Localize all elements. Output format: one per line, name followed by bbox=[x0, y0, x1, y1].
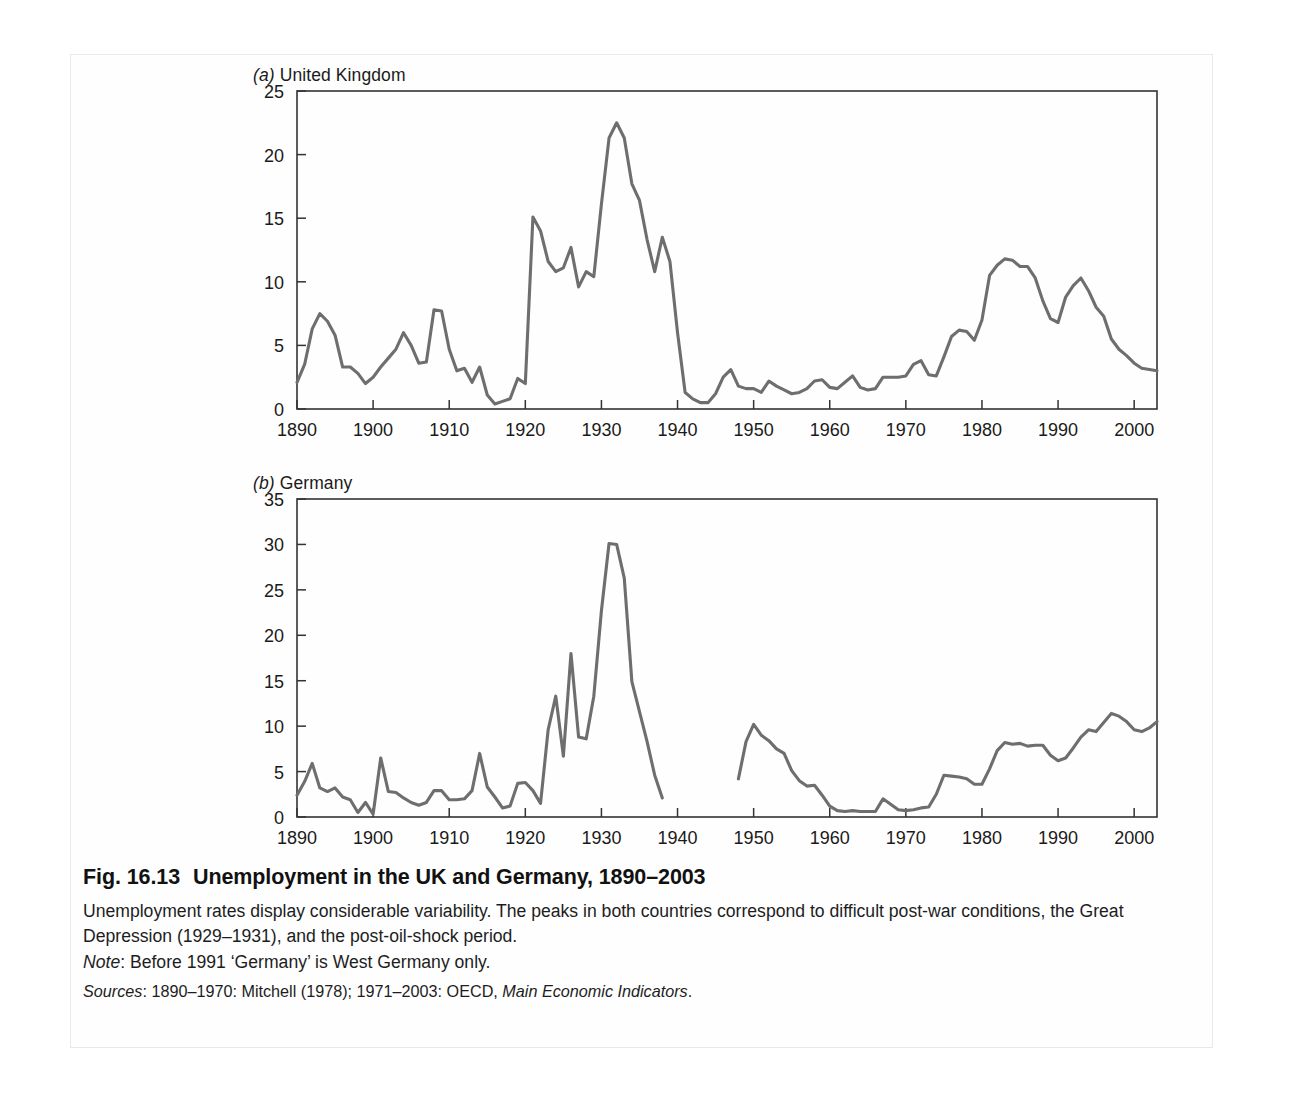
figure-frame: (a) United Kingdom 051015202518901900191… bbox=[70, 54, 1213, 1048]
y-axis-tick-label: 15 bbox=[264, 672, 284, 692]
chart-panel-germany: (b) Germany 0510152025303518901900191019… bbox=[253, 473, 1203, 873]
data-series-line bbox=[297, 123, 1157, 404]
x-axis-tick-label: 1960 bbox=[810, 828, 850, 848]
y-axis-tick-label: 10 bbox=[264, 717, 284, 737]
y-axis-tick-label: 0 bbox=[274, 400, 284, 420]
y-axis-tick-label: 10 bbox=[264, 273, 284, 293]
x-axis-tick-label: 1940 bbox=[658, 420, 698, 440]
figure-label: Fig. 16.13 bbox=[83, 865, 180, 889]
x-axis-tick-label: 2000 bbox=[1114, 420, 1154, 440]
note-label: Note bbox=[83, 952, 120, 972]
sources-italic-title: Main Economic Indicators bbox=[502, 982, 687, 1000]
sources-label: Sources bbox=[83, 982, 142, 1000]
x-axis-tick-label: 1890 bbox=[277, 420, 317, 440]
x-axis-tick-label: 1980 bbox=[962, 828, 1002, 848]
figure-caption-block: Fig. 16.13Unemployment in the UK and Ger… bbox=[83, 865, 1203, 1003]
figure-sources: Sources: 1890–1970: Mitchell (1978); 197… bbox=[83, 980, 1203, 1003]
x-axis-tick-label: 1920 bbox=[505, 420, 545, 440]
x-axis-tick-label: 1890 bbox=[277, 828, 317, 848]
data-series-line bbox=[297, 544, 662, 815]
plot-area-germany: 0510152025303518901900191019201930194019… bbox=[253, 473, 1203, 873]
x-axis-tick-label: 1910 bbox=[429, 828, 469, 848]
y-axis-tick-label: 15 bbox=[264, 209, 284, 229]
chart-panel-uk: (a) United Kingdom 051015202518901900191… bbox=[253, 65, 1203, 465]
x-axis-tick-label: 1960 bbox=[810, 420, 850, 440]
figure-page: (a) United Kingdom 051015202518901900191… bbox=[0, 0, 1289, 1095]
figure-heading: Fig. 16.13Unemployment in the UK and Ger… bbox=[83, 865, 1203, 891]
plot-frame bbox=[297, 499, 1157, 817]
x-axis-tick-label: 1970 bbox=[886, 420, 926, 440]
sources-text-a: : 1890–1970: Mitchell (1978); 1971–2003:… bbox=[142, 982, 502, 1000]
x-axis-tick-label: 1900 bbox=[353, 828, 393, 848]
x-axis-tick-label: 1950 bbox=[734, 828, 774, 848]
figure-note: Note: Before 1991 ‘Germany’ is West Germ… bbox=[83, 950, 1203, 975]
figure-description: Unemployment rates display considerable … bbox=[83, 899, 1191, 949]
x-axis-tick-label: 1910 bbox=[429, 420, 469, 440]
x-axis-tick-label: 1900 bbox=[353, 420, 393, 440]
x-axis-tick-label: 1940 bbox=[658, 828, 698, 848]
y-axis-tick-label: 25 bbox=[264, 581, 284, 601]
y-axis-tick-label: 35 bbox=[264, 490, 284, 510]
x-axis-tick-label: 1950 bbox=[734, 420, 774, 440]
x-axis-tick-label: 1990 bbox=[1038, 828, 1078, 848]
x-axis-tick-label: 1990 bbox=[1038, 420, 1078, 440]
y-axis-tick-label: 5 bbox=[274, 336, 284, 356]
y-axis-tick-label: 30 bbox=[264, 535, 284, 555]
x-axis-tick-label: 1920 bbox=[505, 828, 545, 848]
x-axis-tick-label: 1980 bbox=[962, 420, 1002, 440]
sources-text-b: . bbox=[688, 982, 693, 1000]
data-series-line bbox=[738, 713, 1157, 811]
y-axis-tick-label: 20 bbox=[264, 626, 284, 646]
x-axis-tick-label: 2000 bbox=[1114, 828, 1154, 848]
figure-title: Unemployment in the UK and Germany, 1890… bbox=[193, 865, 705, 889]
x-axis-tick-label: 1930 bbox=[581, 828, 621, 848]
chart-svg-germany: 0510152025303518901900191019201930194019… bbox=[253, 473, 1203, 873]
y-axis-tick-label: 20 bbox=[264, 146, 284, 166]
y-axis-tick-label: 0 bbox=[274, 808, 284, 828]
note-text: : Before 1991 ‘Germany’ is West Germany … bbox=[120, 952, 490, 972]
chart-svg-uk: 0510152025189019001910192019301940195019… bbox=[253, 65, 1203, 465]
y-axis-tick-label: 25 bbox=[264, 82, 284, 102]
x-axis-tick-label: 1970 bbox=[886, 828, 926, 848]
x-axis-tick-label: 1930 bbox=[581, 420, 621, 440]
y-axis-tick-label: 5 bbox=[274, 763, 284, 783]
plot-area-uk: 0510152025189019001910192019301940195019… bbox=[253, 65, 1203, 465]
